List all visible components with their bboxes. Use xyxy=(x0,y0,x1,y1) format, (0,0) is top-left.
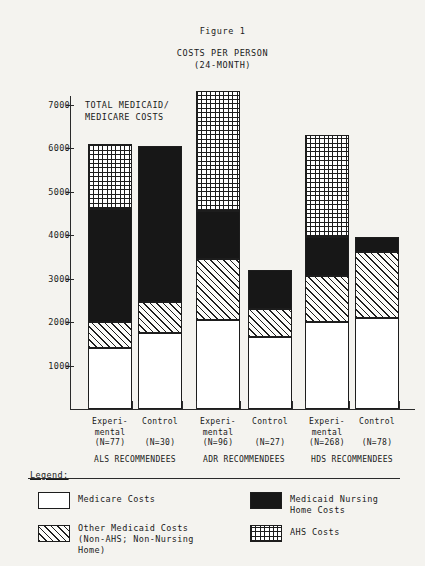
x-tick-mark xyxy=(138,401,139,410)
bar-label-count: (N=30) xyxy=(128,438,192,449)
y-tick-label: 6000 xyxy=(28,143,70,153)
bar-segment-nursing xyxy=(138,146,182,303)
x-tick-mark xyxy=(355,401,356,410)
legend-label-othermed: Other Medicaid Costs (Non-AHS; Non-Nursi… xyxy=(78,523,194,556)
bar-label-line-1: Control xyxy=(238,417,302,428)
bar-stack[interactable] xyxy=(248,270,292,409)
bar-segment-medicare xyxy=(355,318,399,409)
y-tick-label: 5000 xyxy=(28,187,70,197)
legend-label-nursing: Medicaid Nursing Home Costs xyxy=(290,494,400,516)
bar-stack[interactable] xyxy=(138,146,182,409)
group-axis-label: HDS RECOMMENDEES xyxy=(286,455,418,464)
annotation-line-1: TOTAL MEDICAID/ xyxy=(85,100,169,110)
legend-label-ahs: AHS Costs xyxy=(290,527,340,538)
bar-segment-nursing xyxy=(305,237,349,276)
bar-segment-ahs xyxy=(88,144,132,209)
x-tick-mark xyxy=(240,401,241,410)
legend-label-medicare: Medicare Costs xyxy=(78,494,155,505)
x-tick-mark xyxy=(182,401,183,410)
bar-label-line-1: Control xyxy=(128,417,192,428)
bar-label-line-1: Control xyxy=(345,417,409,428)
bar-stack[interactable] xyxy=(305,135,349,409)
legend-swatch-medicare xyxy=(38,492,70,509)
bar-segment-othermed xyxy=(248,309,292,337)
x-tick-mark xyxy=(196,401,197,410)
bar-label-count: (N=78) xyxy=(345,438,409,449)
y-tick-label: 7000 xyxy=(28,100,70,110)
total-costs-annotation: TOTAL MEDICAID/ MEDICARE COSTS xyxy=(85,100,169,123)
bar-segment-nursing xyxy=(196,211,240,259)
x-tick-mark xyxy=(305,401,306,410)
bar-stack[interactable] xyxy=(196,91,240,409)
x-tick-mark xyxy=(349,401,350,410)
y-axis-line xyxy=(70,96,71,410)
bar-segment-othermed xyxy=(355,252,399,317)
figure-page: Figure 1 COSTS PER PERSON (24-MONTH) 100… xyxy=(0,0,425,566)
legend-swatch-nursing xyxy=(250,492,282,509)
bar-segment-nursing xyxy=(88,209,132,322)
y-tick-label: 1000 xyxy=(28,361,70,371)
legend-label-line-1: Medicaid Nursing Home Costs xyxy=(290,494,400,516)
legend-label-line-1: Other Medicaid Costs xyxy=(78,523,194,534)
bar-segment-ahs xyxy=(305,135,349,237)
bar-label-line-2 xyxy=(345,428,409,439)
legend-label-line-2: (Non-AHS; Non-Nursing xyxy=(78,534,194,545)
annotation-line-2: MEDICARE COSTS xyxy=(85,112,164,122)
bar-label-count: (N=27) xyxy=(238,438,302,449)
x-tick-mark xyxy=(88,401,89,410)
bar-axis-label: Control (N=27) xyxy=(238,417,302,449)
x-tick-mark xyxy=(248,401,249,410)
bar-segment-medicare xyxy=(248,337,292,409)
legend-swatch-ahs xyxy=(250,525,282,542)
legend: Medicare CostsMedicaid Nursing Home Cost… xyxy=(28,478,400,564)
y-tick-label: 3000 xyxy=(28,274,70,284)
bar-segment-nursing xyxy=(248,270,292,309)
bar-segment-medicare xyxy=(305,322,349,409)
legend-label-line-1: AHS Costs xyxy=(290,527,340,538)
bar-segment-othermed xyxy=(196,259,240,320)
bar-segment-nursing xyxy=(355,237,399,252)
bar-axis-label: Control (N=78) xyxy=(345,417,409,449)
bar-segment-ahs xyxy=(196,91,240,211)
bar-segment-othermed xyxy=(88,322,132,348)
x-tick-mark xyxy=(399,401,400,410)
bar-segment-medicare xyxy=(138,333,182,409)
bar-label-line-2 xyxy=(128,428,192,439)
bar-segment-othermed xyxy=(305,276,349,322)
bar-stack[interactable] xyxy=(355,237,399,409)
legend-swatch-othermed xyxy=(38,525,70,542)
y-tick-label: 2000 xyxy=(28,317,70,327)
y-tick-label: 4000 xyxy=(28,230,70,240)
bar-segment-medicare xyxy=(88,348,132,409)
bar-segment-medicare xyxy=(196,320,240,409)
legend-label-line-1: Medicare Costs xyxy=(78,494,155,505)
bar-segment-othermed xyxy=(138,302,182,332)
x-axis-line xyxy=(70,409,415,410)
x-tick-mark xyxy=(292,401,293,410)
bar-axis-label: Control (N=30) xyxy=(128,417,192,449)
bar-stack[interactable] xyxy=(88,144,132,409)
legend-label-line-3: Home) xyxy=(78,545,194,556)
bar-label-line-2 xyxy=(238,428,302,439)
x-tick-mark xyxy=(132,401,133,410)
